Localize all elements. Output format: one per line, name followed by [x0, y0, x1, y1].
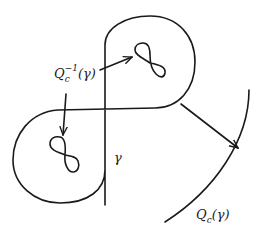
label-gamma: γ: [114, 151, 122, 164]
curve-image: [165, 90, 249, 222]
preimage-lower-figure-eight: [50, 137, 79, 172]
arrow-to-lower-preimage: [63, 94, 66, 135]
label-preimage: Qc−1(γ): [54, 66, 96, 84]
curve-gamma: [13, 16, 195, 205]
preimage-upper-figure-eight: [135, 43, 165, 77]
arrow-to-image: [181, 104, 238, 148]
label-image: Qc(γ): [196, 208, 230, 225]
diagram-canvas: [0, 0, 263, 236]
